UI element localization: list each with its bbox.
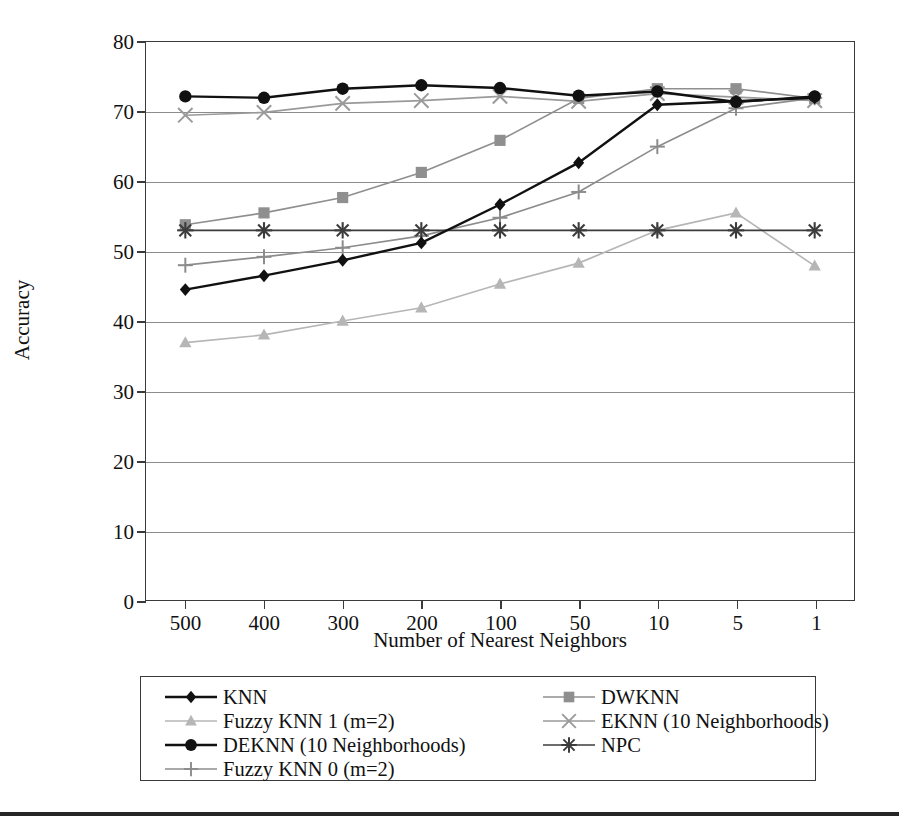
legend-label: KNN — [219, 687, 267, 707]
marker-circle — [651, 85, 663, 97]
legend-sample — [163, 711, 219, 731]
legend-item[interactable]: DEKNN (10 Neighborhoods) — [163, 733, 523, 756]
legend-column-left: KNNFuzzy KNN 1 (m=2)DEKNN (10 Neighborho… — [163, 685, 523, 781]
x-tick-label: 50 — [569, 611, 590, 636]
y-tick — [137, 251, 146, 252]
marker-plus — [335, 240, 350, 255]
series-knn — [180, 91, 820, 296]
y-tick-label: 70 — [113, 100, 134, 125]
plot-area: 01020304050607080 500400300200100501051 — [145, 41, 855, 601]
series-line — [185, 98, 814, 290]
marker-circle — [179, 90, 191, 102]
series-npc — [177, 222, 823, 238]
marker-circle — [808, 90, 820, 102]
marker-circle — [730, 96, 742, 108]
marker-square — [416, 167, 427, 178]
legend-marker-icon — [163, 759, 219, 779]
legend-sample — [163, 687, 219, 707]
marker-diamond — [180, 283, 191, 296]
legend-item[interactable]: KNN — [163, 685, 523, 708]
x-tick-label: 500 — [170, 611, 202, 636]
x-tick-label: 10 — [648, 611, 669, 636]
marker-square — [564, 691, 575, 702]
x-tick — [421, 600, 422, 609]
marker-asterisk — [570, 222, 586, 238]
series-fuzzy-knn-0-m-2- — [178, 90, 822, 272]
marker-square — [730, 83, 741, 94]
y-tick-label: 0 — [124, 590, 135, 615]
x-tick-label: 300 — [327, 611, 359, 636]
x-tick-label: 1 — [811, 611, 822, 636]
marker-diamond — [573, 156, 584, 169]
marker-square — [494, 135, 505, 146]
legend-item[interactable]: EKNN (10 Neighborhoods) — [541, 709, 811, 732]
legend-label: DWKNN — [597, 687, 680, 707]
y-tick-label: 40 — [113, 310, 134, 335]
marker-diamond — [337, 254, 348, 267]
marker-plus — [650, 139, 665, 154]
marker-diamond — [186, 690, 196, 702]
marker-circle — [415, 79, 427, 91]
series-deknn-10-neighborhoods- — [179, 79, 821, 108]
marker-plus — [178, 258, 193, 273]
legend-marker-icon — [541, 687, 597, 707]
chart-area: Accuracy Number of Nearest Neighbors 010… — [0, 0, 899, 660]
legend-marker-icon — [163, 711, 219, 731]
legend-marker-icon — [163, 687, 219, 707]
y-tick-label: 10 — [113, 520, 134, 545]
marker-asterisk — [177, 222, 193, 238]
legend-sample — [541, 711, 597, 731]
legend-sample — [163, 735, 219, 755]
y-tick — [137, 461, 146, 462]
legend-marker-icon — [541, 735, 597, 755]
marker-plus — [571, 184, 586, 199]
y-tick — [137, 601, 146, 602]
legend-sample — [541, 735, 597, 755]
marker-plus — [257, 249, 272, 264]
marker-circle — [494, 82, 506, 94]
marker-plus — [184, 761, 198, 775]
x-tick — [579, 600, 580, 609]
y-tick — [137, 321, 146, 322]
legend-item[interactable]: Fuzzy KNN 0 (m=2) — [163, 757, 523, 780]
marker-triangle — [730, 206, 742, 217]
legend-label: Fuzzy KNN 0 (m=2) — [219, 759, 395, 779]
marker-circle — [258, 92, 270, 104]
x-tick — [343, 600, 344, 609]
y-tick — [137, 181, 146, 182]
legend-column-right: DWKNNEKNN (10 Neighborhoods)NPC — [541, 685, 811, 757]
legend-sample — [163, 759, 219, 779]
legend-item[interactable]: DWKNN — [541, 685, 811, 708]
legend-item[interactable]: NPC — [541, 733, 811, 756]
legend-box: KNNFuzzy KNN 1 (m=2)DEKNN (10 Neighborho… — [140, 676, 816, 781]
x-tick — [185, 600, 186, 609]
marker-asterisk — [334, 222, 350, 238]
x-tick — [658, 600, 659, 609]
x-tick-label: 200 — [406, 611, 438, 636]
legend-item[interactable]: Fuzzy KNN 1 (m=2) — [163, 709, 523, 732]
marker-square — [337, 192, 348, 203]
series-line — [185, 98, 814, 265]
marker-circle — [185, 739, 197, 751]
marker-diamond — [494, 198, 505, 211]
x-tick — [264, 600, 265, 609]
marker-asterisk — [492, 222, 508, 238]
marker-diamond — [652, 98, 663, 111]
legend-marker-icon — [541, 711, 597, 731]
marker-asterisk — [256, 222, 272, 238]
legend-label: NPC — [597, 735, 641, 755]
x-tick-label: 400 — [249, 611, 281, 636]
x-tick-label: 5 — [732, 611, 743, 636]
marker-triangle — [809, 259, 821, 270]
series-layer — [146, 42, 854, 600]
y-tick-label: 20 — [113, 450, 134, 475]
y-tick-label: 60 — [113, 170, 134, 195]
marker-asterisk — [806, 222, 822, 238]
bottom-rule — [0, 812, 899, 816]
marker-asterisk — [561, 737, 577, 753]
y-axis-title: Accuracy — [10, 280, 35, 360]
figure-root: Accuracy Number of Nearest Neighbors 010… — [0, 0, 899, 831]
legend-label: EKNN (10 Neighborhoods) — [597, 711, 829, 731]
legend-marker-icon — [163, 735, 219, 755]
y-tick-label: 80 — [113, 30, 134, 55]
